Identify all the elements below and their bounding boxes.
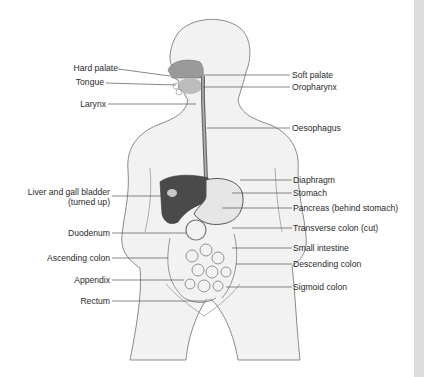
label-hard-palate: Hard palate [40,63,118,73]
label-ascending-colon: Ascending colon [0,253,110,263]
digestive-system-diagram: Hard palate Tongue Larynx Liver and gall… [0,0,424,377]
oral-cavity [178,78,202,94]
label-appendix: Appendix [0,275,110,285]
label-sigmoid-colon: Sigmoid colon [293,282,347,292]
label-oropharynx: Oropharynx [292,82,337,92]
label-soft-palate: Soft palate [292,70,333,80]
label-diaphragm: Diaphragm [293,175,335,185]
label-duodenum: Duodenum [0,228,110,238]
label-transverse-colon: Transverse colon (cut) [293,223,378,233]
label-pancreas: Pancreas (behind stomach) [293,203,398,213]
label-oesophagus: Oesophagus [292,123,341,133]
label-liver-note: (turned up) [0,197,110,207]
label-rectum: Rectum [0,296,110,306]
label-small-intestine: Small intestine [293,243,349,253]
label-larynx: Larynx [40,99,106,109]
page-edge-strip [414,0,424,377]
label-descending-colon: Descending colon [293,259,361,269]
label-stomach: Stomach [293,188,327,198]
label-tongue: Tongue [40,77,104,87]
label-liver: Liver and gall bladder [0,187,110,197]
